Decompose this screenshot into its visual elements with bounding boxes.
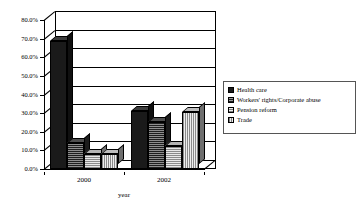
y-tick-label: 0.0% xyxy=(24,166,38,173)
chart-legend: Health care Workers' rights/Corporate ab… xyxy=(223,81,356,134)
x-category-label-2000: 2000 xyxy=(64,177,104,184)
depth-line xyxy=(44,11,56,21)
bar-front-face xyxy=(84,154,101,169)
bar-pension-reform-2000 xyxy=(84,154,101,169)
bar-front-face xyxy=(131,111,148,169)
bar-side-face xyxy=(199,102,205,164)
bar-front-face xyxy=(182,112,199,169)
legend-item-health-care: Health care xyxy=(228,85,351,95)
gridline xyxy=(56,30,215,31)
legend-item-label: Trade xyxy=(237,117,252,124)
x-tick-mark xyxy=(44,172,45,175)
y-tick-label: 50.0% xyxy=(21,73,38,80)
bar-health-care-2002 xyxy=(131,111,148,169)
y-axis-line xyxy=(44,20,45,170)
x-axis-line xyxy=(44,169,205,170)
x-tick-mark xyxy=(204,172,205,175)
y-tick-label: 80.0% xyxy=(21,17,38,24)
legend-item-workers-rights: Workers' rights/Corporate abuse xyxy=(228,95,351,105)
y-tick-label: 40.0% xyxy=(21,91,38,98)
gridline xyxy=(56,86,215,87)
legend-swatch-icon xyxy=(228,107,234,113)
bar-front-face xyxy=(148,122,165,169)
y-tick-label: 60.0% xyxy=(21,54,38,61)
y-axis-labels: 80.0% 70.0% 60.0% 50.0% 40.0% 30.0% 20.0… xyxy=(2,0,38,216)
legend-item-label: Health care xyxy=(237,87,267,94)
bar-front-face xyxy=(67,143,84,169)
bar-front-face xyxy=(165,146,182,169)
bar-pension-reform-2002 xyxy=(165,146,182,169)
x-axis-title: year xyxy=(104,192,144,199)
y-tick-label: 20.0% xyxy=(21,129,38,136)
bar-health-care-2000 xyxy=(50,41,67,170)
bar-front-face xyxy=(101,154,118,169)
legend-swatch-icon xyxy=(228,87,234,93)
legend-item-label: Workers' rights/Corporate abuse xyxy=(237,97,321,104)
bar-front-face xyxy=(50,41,67,170)
y-tick-label: 10.0% xyxy=(21,147,38,154)
legend-swatch-icon xyxy=(228,117,234,123)
gridline xyxy=(56,48,215,49)
x-tick-mark xyxy=(124,172,125,175)
gridline xyxy=(56,104,215,105)
gridline xyxy=(56,67,215,68)
bar-workers-rights-2002 xyxy=(148,122,165,169)
legend-swatch-icon xyxy=(228,97,234,103)
chart-container: 80.0% 70.0% 60.0% 50.0% 40.0% 30.0% 20.0… xyxy=(0,0,357,216)
bar-workers-rights-2000 xyxy=(67,143,84,169)
y-tick-label: 70.0% xyxy=(21,35,38,42)
bar-trade-2000 xyxy=(101,154,118,169)
y-tick-label: 30.0% xyxy=(21,110,38,117)
bar-trade-2002 xyxy=(182,112,199,169)
legend-item-trade: Trade xyxy=(228,115,351,125)
x-category-label-2002: 2002 xyxy=(144,177,184,184)
legend-item-pension-reform: Pension reform xyxy=(228,105,351,115)
legend-item-label: Pension reform xyxy=(237,107,277,114)
